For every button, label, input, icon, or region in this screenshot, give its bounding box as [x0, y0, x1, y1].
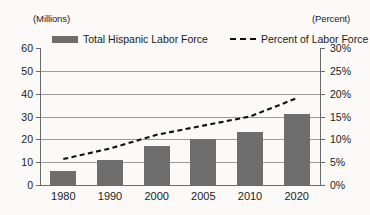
legend-bar-label: Total Hispanic Labor Force — [83, 33, 208, 45]
right-axis-tick-label: 10% — [330, 133, 360, 145]
right-axis-tick-label: 0% — [330, 179, 360, 191]
bar — [97, 160, 123, 185]
x-axis-tick-label: 1990 — [98, 190, 122, 202]
right-axis-tick-label: 20% — [330, 88, 360, 100]
legend-item-line: Percent of Labor Force — [230, 33, 368, 45]
left-axis-unit-label: (Millions) — [33, 13, 70, 24]
gridline — [40, 94, 320, 95]
bar — [284, 114, 310, 185]
left-axis-tick-label: 10 — [11, 156, 33, 168]
x-axis-tick-label: 2010 — [238, 190, 262, 202]
right-axis-tick-mark — [321, 117, 325, 118]
legend-dashed-line-swatch-icon — [230, 38, 256, 40]
left-axis-tick-label: 20 — [11, 133, 33, 145]
right-axis-unit-label: (Percent) — [312, 13, 350, 24]
bar — [190, 139, 216, 185]
chart-canvas: (Millions) (Percent) 0102030405060 0%5%1… — [0, 0, 370, 215]
bar — [144, 146, 170, 185]
right-axis-tick-mark — [321, 94, 325, 95]
right-axis-tick-mark — [321, 71, 325, 72]
x-axis-tick-label: 2000 — [144, 190, 168, 202]
x-axis-line — [40, 185, 321, 186]
right-axis-line — [320, 48, 321, 186]
left-axis-tick-label: 50 — [11, 65, 33, 77]
gridline — [40, 162, 320, 163]
gridline — [40, 71, 320, 72]
right-axis-tick-mark — [321, 185, 325, 186]
chart-legend: Total Hispanic Labor Force Percent of La… — [52, 33, 368, 45]
bar — [50, 171, 76, 185]
right-axis-tick-mark — [321, 48, 325, 49]
legend-bar-swatch-icon — [52, 36, 78, 43]
right-axis-tick-mark — [321, 139, 325, 140]
right-axis-tick-label: 25% — [330, 65, 360, 77]
right-axis-tick-mark — [321, 162, 325, 163]
bar — [237, 132, 263, 185]
x-axis-tick-label: 2020 — [284, 190, 308, 202]
gridline — [40, 117, 320, 118]
gridline — [40, 139, 320, 140]
legend-line-label: Percent of Labor Force — [261, 33, 368, 45]
left-axis-tick-label: 30 — [11, 111, 33, 123]
left-axis-line — [40, 48, 41, 186]
legend-item-bar: Total Hispanic Labor Force — [52, 33, 208, 45]
left-axis-tick-label: 0 — [11, 179, 33, 191]
left-axis-tick-label: 60 — [11, 42, 33, 54]
x-axis-tick-label: 2005 — [191, 190, 215, 202]
x-axis-tick-label: 1980 — [51, 190, 75, 202]
right-axis-tick-label: 5% — [330, 156, 360, 168]
left-axis-tick-label: 40 — [11, 88, 33, 100]
right-axis-tick-label: 15% — [330, 111, 360, 123]
